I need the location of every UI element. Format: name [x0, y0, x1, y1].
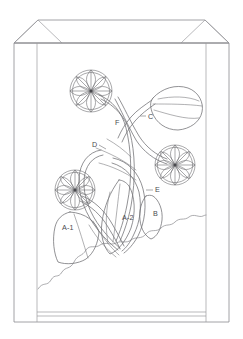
stem-right-outer — [118, 97, 167, 159]
leaf-b — [140, 195, 162, 239]
callout-label-a-1: A-1 — [62, 223, 74, 232]
top-flap — [14, 20, 229, 43]
flower-rosette-top-left — [70, 70, 112, 112]
stem-bundle — [79, 95, 167, 253]
callout-label-d: D — [92, 140, 97, 149]
bud-vein-upper — [158, 97, 199, 101]
top-left-corner-fold — [14, 20, 62, 43]
callout-label-c: C — [148, 112, 153, 121]
leaf-a1-vein — [74, 214, 88, 258]
top-right-corner-fold — [181, 20, 229, 43]
leaf-cluster — [54, 180, 163, 264]
flower-center — [174, 164, 177, 167]
flower-center — [90, 90, 93, 93]
figure-root: A-1 A-2 B C D E F — [0, 0, 243, 339]
bud-vein-lower — [154, 110, 199, 118]
bud-outline — [151, 86, 203, 130]
stem-right-inner — [115, 99, 167, 164]
leader-d — [99, 145, 106, 149]
flower-rosette-right — [155, 145, 195, 185]
flower-rosette-bottom-left — [55, 170, 95, 210]
callout-label-b: B — [153, 209, 158, 218]
callout-label-f: F — [115, 118, 120, 127]
bud-vein-mid — [153, 104, 202, 106]
flower-center — [74, 189, 77, 192]
callout-label-e: E — [155, 185, 160, 194]
callout-label-a-2: A-2 — [122, 213, 134, 222]
stem-bottom-left-inner — [80, 201, 120, 249]
botanical-bag-diagram: A-1 A-2 B C D E F — [0, 0, 243, 339]
bag-body — [14, 43, 229, 322]
leaf-bud-top-right — [151, 86, 203, 130]
